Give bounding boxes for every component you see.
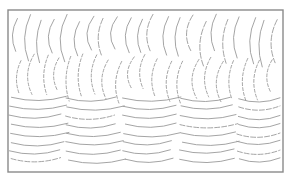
arc-stroke xyxy=(140,55,145,89)
arc-stroke xyxy=(54,58,59,90)
arc-stroke xyxy=(67,132,121,136)
arc-stroke xyxy=(242,58,247,100)
arc-stroke xyxy=(74,22,80,56)
arc-stroke xyxy=(123,105,176,109)
arc-stroke xyxy=(116,61,122,104)
arc-stroke xyxy=(125,123,176,127)
arc-stroke xyxy=(192,59,199,98)
arc-stroke xyxy=(66,150,120,154)
vertical-arc-pattern xyxy=(12,14,277,105)
arc-stroke xyxy=(11,158,60,162)
arc-stroke xyxy=(200,21,206,67)
arc-stroke xyxy=(271,20,277,63)
arc-stroke xyxy=(16,61,21,95)
arc-stroke xyxy=(239,158,280,162)
arc-stroke xyxy=(66,115,115,119)
arc-stroke xyxy=(254,60,260,100)
arc-stroke xyxy=(66,124,115,128)
arc-stroke xyxy=(102,60,108,99)
arc-stroke xyxy=(239,124,280,128)
arc-stroke xyxy=(166,61,172,101)
arc-stroke xyxy=(147,14,153,52)
arc-stroke xyxy=(66,97,116,101)
arc-stroke xyxy=(163,17,169,56)
arc-stroke xyxy=(181,97,231,101)
arc-stroke xyxy=(60,14,67,61)
arc-stroke xyxy=(68,159,125,163)
arc-stroke xyxy=(123,97,181,101)
arc-stroke xyxy=(78,54,83,96)
arc-stroke xyxy=(125,18,131,53)
arc-stroke xyxy=(98,18,103,55)
scallop-arc-pattern xyxy=(9,96,280,163)
drawing-frame xyxy=(8,10,283,172)
arc-stroke xyxy=(44,55,49,94)
arc-stroke xyxy=(123,141,171,145)
arc-stroke xyxy=(205,57,211,97)
arc-stroke xyxy=(124,133,181,137)
arc-stroke xyxy=(11,132,69,136)
arc-stroke xyxy=(67,106,125,110)
arc-stroke xyxy=(137,19,142,52)
arc-stroke xyxy=(180,158,235,162)
arc-stroke xyxy=(125,158,173,162)
arc-stroke xyxy=(180,115,236,119)
arc-stroke xyxy=(123,150,171,154)
arc-stroke xyxy=(11,96,66,100)
arc-stroke xyxy=(250,18,256,64)
arc-stroke xyxy=(110,17,117,49)
arc-stroke xyxy=(91,55,97,94)
arc-stroke xyxy=(66,141,124,145)
arc-stroke xyxy=(223,19,228,63)
arc-stroke xyxy=(66,56,71,101)
arc-stroke xyxy=(180,124,238,128)
arc-stroke xyxy=(123,114,177,118)
arc-stroke xyxy=(229,61,234,100)
arc-stroke xyxy=(181,132,235,136)
arc-stroke xyxy=(237,133,280,137)
arc-stroke xyxy=(237,140,280,144)
arc-stroke xyxy=(11,123,68,127)
arc-stroke xyxy=(181,105,232,109)
arc-stroke xyxy=(180,149,235,153)
arc-stroke xyxy=(36,20,41,62)
arc-stroke xyxy=(182,141,239,145)
arc-stroke xyxy=(233,17,239,58)
arc-stroke xyxy=(238,115,280,119)
arc-stroke xyxy=(152,59,157,98)
arc-stroke xyxy=(9,114,61,118)
arc-stroke xyxy=(10,105,67,109)
arc-stroke xyxy=(239,106,280,110)
arc-stroke xyxy=(128,57,135,89)
arc-stroke xyxy=(267,60,272,92)
arc-stroke xyxy=(87,16,94,50)
arc-stroke xyxy=(211,14,216,50)
arc-stroke xyxy=(25,15,31,61)
arc-stroke xyxy=(237,150,280,154)
arc-stroke xyxy=(175,18,180,57)
pattern-drawing xyxy=(0,0,295,183)
arc-stroke xyxy=(11,142,64,146)
arc-stroke xyxy=(187,15,193,51)
arc-stroke xyxy=(48,19,54,53)
arc-stroke xyxy=(216,61,223,101)
arc-stroke xyxy=(9,150,59,154)
arc-stroke xyxy=(12,18,17,51)
